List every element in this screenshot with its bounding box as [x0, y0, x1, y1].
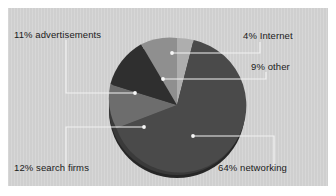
label-networking: 64% networking — [218, 163, 287, 173]
label-internet: 4% Internet — [243, 31, 293, 41]
pie-chart-graphic — [107, 30, 247, 180]
label-search-firms: 12% search firms — [14, 163, 89, 173]
label-advertisements: 11% advertisements — [14, 30, 101, 40]
pie-svg — [107, 30, 247, 180]
pie-chart-screenshot: 11% advertisements 4% Internet 9% other … — [0, 0, 336, 196]
label-other: 9% other — [251, 62, 290, 72]
